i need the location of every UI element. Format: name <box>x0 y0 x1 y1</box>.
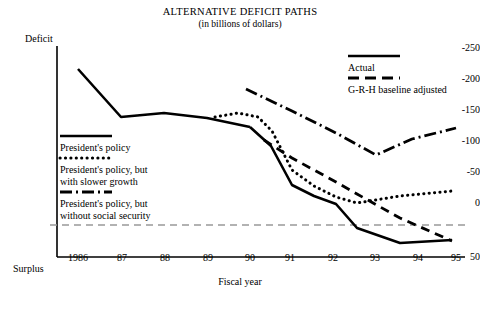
plot-area <box>0 0 480 313</box>
series-actual-line <box>78 69 250 127</box>
series-no-social-security-line <box>246 89 456 155</box>
deficit-chart: ALTERNATIVE DEFICIT PATHS (in billions o… <box>0 0 480 313</box>
series-grh-baseline-line <box>264 140 452 241</box>
